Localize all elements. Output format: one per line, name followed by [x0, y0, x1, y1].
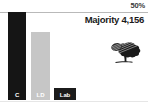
bar-conservative[interactable]: C: [8, 12, 26, 100]
oak-tree-icon: [104, 37, 144, 67]
threshold-percent-label: 50%: [131, 1, 145, 11]
chart-baseline: [0, 101, 148, 102]
bar-fill-labour: Lab: [54, 88, 76, 100]
election-bar-chart-widget: 50% Majority 4,156: [0, 0, 148, 105]
bar-label-conservative: C: [8, 92, 26, 99]
majority-caption: Majority 4,156: [85, 14, 144, 26]
bar-libdem[interactable]: LD: [31, 32, 50, 100]
bar-fill-conservative: C: [8, 12, 26, 100]
bar-label-libdem: LD: [31, 92, 50, 99]
bar-label-labour: Lab: [54, 92, 76, 99]
bar-fill-libdem: LD: [31, 32, 50, 100]
oak-tree-logo: [104, 37, 144, 67]
bar-labour[interactable]: Lab: [54, 88, 76, 100]
bars-plot-area: C LD Lab: [0, 0, 86, 105]
